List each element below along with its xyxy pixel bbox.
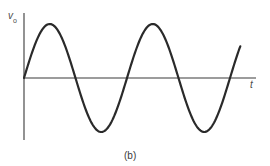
y-axis-label: vo bbox=[8, 11, 17, 23]
x-axis-label: t bbox=[250, 80, 253, 90]
figure-caption: (b) bbox=[124, 151, 136, 161]
y-axis-label-subscript: o bbox=[13, 17, 17, 24]
sine-wave-figure: vo t (b) bbox=[0, 0, 270, 166]
plot-area bbox=[0, 0, 270, 166]
